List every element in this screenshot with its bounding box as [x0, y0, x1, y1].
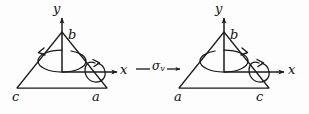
right-vertex-label-a: a: [174, 90, 182, 103]
right-apex-label-b: b: [230, 28, 238, 41]
sigma-symbol: σ: [152, 59, 160, 73]
right-y-axis-label: y: [215, 2, 222, 15]
left-diagram-graphics: [17, 18, 117, 88]
right-vertex-label-c: c: [256, 90, 263, 103]
sigma-subscript-v: v: [160, 64, 165, 73]
reflection-symmetry-figure: y b x c a σv y b x a c: [0, 0, 309, 114]
left-y-rotation-arrowhead: [39, 48, 46, 55]
left-vertex-label-a: a: [92, 90, 100, 103]
right-y-rotation-arrowhead: [241, 48, 248, 55]
left-apex-label-b: b: [68, 28, 76, 41]
left-y-axis-label: y: [53, 2, 60, 15]
left-vertex-label-c: c: [12, 90, 19, 103]
sigma-v-operation-label: σv: [152, 60, 165, 73]
right-x-axis-label: x: [288, 63, 295, 76]
left-x-axis-label: x: [120, 63, 127, 76]
